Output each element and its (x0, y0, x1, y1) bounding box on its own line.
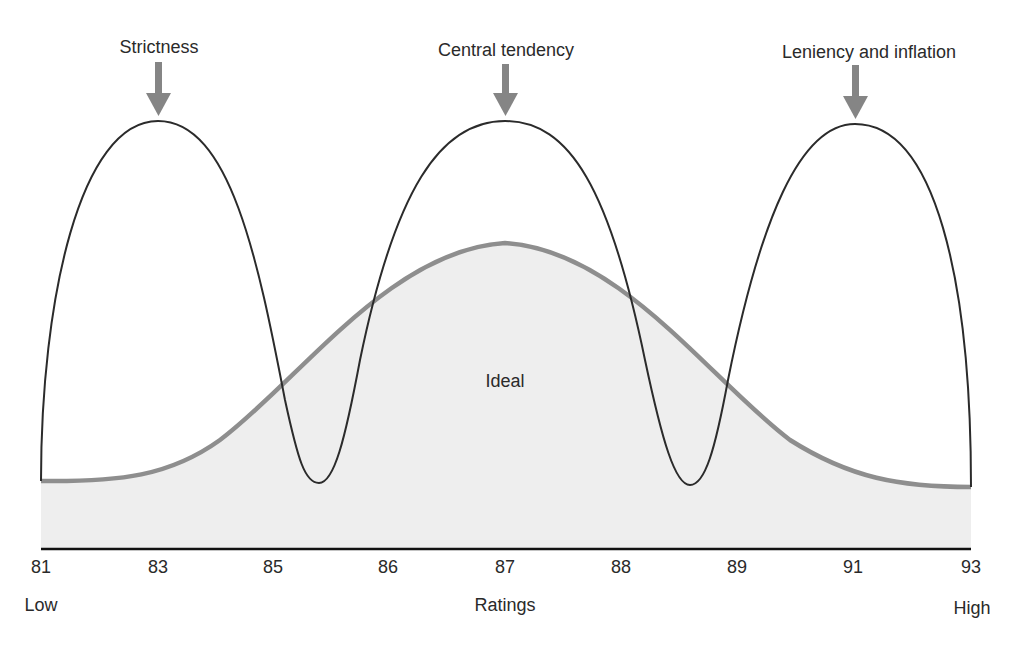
x-tick-91: 91 (843, 558, 863, 576)
annotation-strictness: Strictness (119, 38, 198, 56)
arrow-leniency-icon (843, 65, 868, 119)
x-tick-87: 87 (495, 558, 515, 576)
ideal-curve-fill (41, 243, 971, 549)
x-tick-88: 88 (611, 558, 631, 576)
rating-distribution-figure (0, 0, 1021, 646)
x-tick-89: 89 (727, 558, 747, 576)
annotation-leniency-inflation: Leniency and inflation (782, 43, 956, 61)
x-tick-93: 93 (961, 558, 981, 576)
x-axis-low-label: Low (24, 596, 57, 614)
x-tick-86: 86 (378, 558, 398, 576)
arrow-strictness-icon (146, 62, 171, 116)
x-tick-81: 81 (31, 558, 51, 576)
x-axis-high-label: High (953, 599, 990, 617)
annotation-central-tendency: Central tendency (438, 41, 574, 59)
x-tick-83: 83 (148, 558, 168, 576)
x-tick-85: 85 (263, 558, 283, 576)
annotation-ideal: Ideal (485, 372, 524, 390)
arrow-central-tendency-icon (493, 64, 518, 116)
x-axis-title: Ratings (474, 596, 535, 614)
